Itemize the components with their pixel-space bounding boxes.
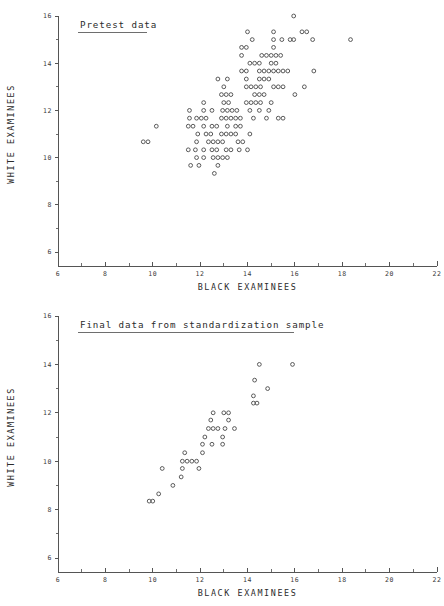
data-point [186,124,190,128]
data-point [179,475,183,479]
x-tick-label: 16 [290,270,299,278]
final-chart-panel: 68101214166810121416182022BLACK EXAMINEE… [0,300,444,606]
data-point [244,77,248,81]
data-point [229,148,233,152]
data-point [186,148,190,152]
data-point [249,101,253,105]
data-point [274,61,278,65]
data-point [146,140,150,144]
data-point [286,69,290,73]
x-tick-label: 14 [243,270,252,278]
data-point [201,451,205,455]
data-point [154,124,158,128]
data-point [220,116,224,120]
data-point [227,101,231,105]
data-point [225,109,229,113]
data-point [269,61,273,65]
pretest-chart-panel: 68101214166810121416182022BLACK EXAMINEE… [0,0,444,300]
data-point [222,101,226,105]
data-point [189,163,193,167]
data-point [207,427,211,431]
data-point [244,85,248,89]
x-tick-label: 18 [338,270,347,278]
x-tick-label: 14 [243,576,252,584]
data-point [267,109,271,113]
data-point [221,156,225,160]
data-point [248,132,252,136]
data-point [241,140,245,144]
y-tick-label: 16 [43,312,52,320]
data-point [257,61,261,65]
data-point [300,30,304,34]
data-point [253,378,257,382]
data-point [202,156,206,160]
data-point [197,163,201,167]
data-point [246,148,250,152]
data-point [257,109,261,113]
data-point [225,77,229,81]
data-point [210,124,214,128]
data-point [238,124,242,128]
data-point [272,85,276,89]
x-tick-label: 6 [56,270,61,278]
data-point [202,124,206,128]
data-point [248,61,252,65]
data-point [266,387,270,391]
data-point [211,427,215,431]
data-point [349,38,353,42]
data-point [215,124,219,128]
data-point [204,116,208,120]
data-point [216,140,220,144]
data-point [259,85,263,89]
y-axis-title: WHITE EXAMINEES [6,387,16,487]
data-point [272,38,276,42]
data-point [180,467,184,471]
data-point [141,140,145,144]
data-point [224,132,228,136]
data-point [190,459,194,463]
y-axis-title-group: WHITE EXAMINEES [6,387,16,487]
data-point [269,54,273,58]
data-point [203,435,207,439]
data-point [292,14,296,18]
data-point [249,85,253,89]
data-point [246,30,250,34]
data-point [276,69,280,73]
data-point [244,101,248,105]
x-tick-label: 22 [432,270,441,278]
data-point [188,116,192,120]
y-tick-label: 6 [47,248,52,256]
y-tick-label: 10 [43,458,52,466]
y-axis-title-group: WHITE EXAMINEES [6,84,16,184]
x-tick-label: 6 [56,576,61,584]
data-point [196,132,200,136]
data-point [215,148,219,152]
data-point [244,69,248,73]
x-tick-label: 12 [196,270,205,278]
data-point [202,101,206,105]
data-point [244,45,248,49]
y-axis-title: WHITE EXAMINEES [6,84,16,184]
data-point [222,85,226,89]
data-point [201,442,205,446]
x-tick-label: 12 [196,576,205,584]
data-point [225,156,229,160]
data-point [240,54,244,58]
data-point [233,427,237,431]
data-point [211,140,215,144]
data-point [237,148,241,152]
data-point [248,109,252,113]
x-axis-title: BLACK EXAMINEES [198,588,298,598]
data-point [223,427,227,431]
pretest-title: Pretest data [80,19,157,30]
y-tick-label: 16 [43,12,52,20]
x-tick-label: 8 [103,576,108,584]
y-tick-label: 8 [47,201,52,209]
final-plot: 68101214166810121416182022BLACK EXAMINEE… [0,300,444,606]
data-point [224,148,228,152]
data-point [222,411,226,415]
data-point [280,38,284,42]
x-tick-label: 16 [290,576,299,584]
data-point [183,451,187,455]
data-point [272,45,276,49]
